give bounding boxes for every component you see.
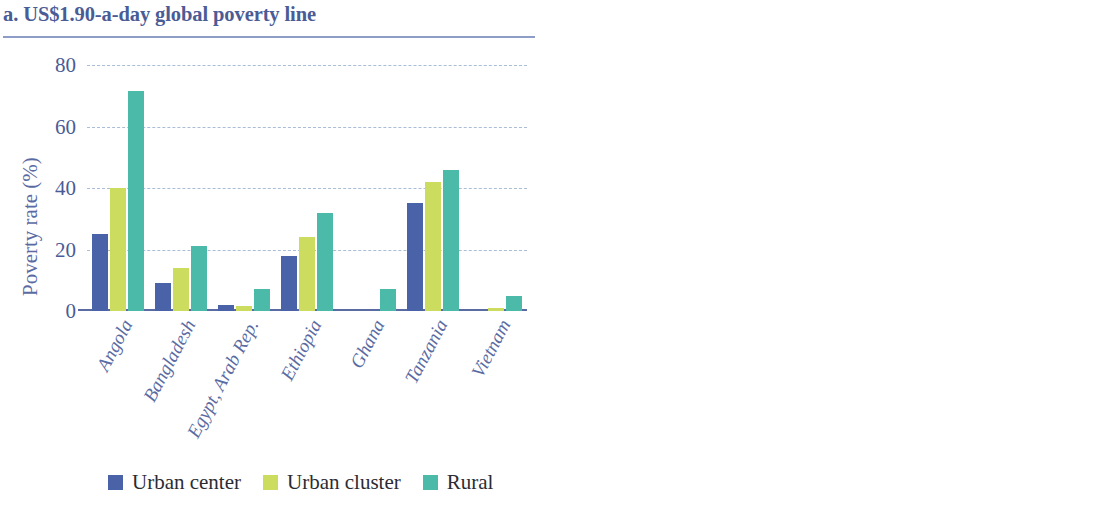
legend-item: Urban cluster (263, 470, 401, 495)
panel-a-title-rule (3, 36, 535, 38)
x-tick-cell: Ghana (338, 313, 401, 314)
legend-label: Rural (447, 470, 494, 495)
legend-swatch (263, 475, 278, 490)
bar (92, 234, 108, 311)
bar (407, 203, 423, 311)
legend-swatch (108, 475, 123, 490)
poverty-rate-figure: a. US$1.90-a-day global poverty line Pov… (0, 0, 1110, 531)
chart-panels: a. US$1.90-a-day global poverty line Pov… (0, 0, 1110, 497)
x-tick-label-text: Ethiopia (276, 316, 326, 384)
y-axis-tick-label: 80 (55, 53, 76, 78)
x-tick-cell: Egypt, Arab Rep. (213, 313, 276, 314)
panel-a-y-axis-label: Poverty rate (%) (18, 157, 43, 296)
y-axis-tick-label: 60 (55, 114, 76, 139)
bar (425, 182, 441, 311)
y-axis-tick-label: 0 (66, 299, 77, 324)
x-tick-cell: Tanzania (401, 313, 464, 314)
x-tick-cell: Vietnam (464, 313, 527, 314)
x-tick-label-text: Bangladesh (139, 316, 201, 406)
legend-item: Rural (423, 470, 494, 495)
y-axis-tick-label: 20 (55, 237, 76, 262)
x-tick-cell: Bangladesh (150, 313, 213, 314)
bar (218, 305, 234, 311)
legend-item: Urban center (108, 470, 241, 495)
x-tick-cell: Angola (87, 313, 150, 314)
x-tick-label-text: Tanzania (400, 316, 452, 387)
panel-a-legend: Urban centerUrban clusterRural (108, 470, 515, 495)
x-tick-label-text: Ghana (346, 316, 390, 372)
legend-label: Urban cluster (287, 470, 401, 495)
panel-a-x-tick-labels: AngolaBangladeshEgypt, Arab Rep.Ethiopia… (87, 313, 527, 314)
y-axis-tick-label: 40 (55, 176, 76, 201)
legend-swatch (423, 475, 438, 490)
panel-a: a. US$1.90-a-day global poverty line Pov… (0, 0, 555, 497)
x-tick-label-text: Vietnam (467, 316, 515, 381)
x-tick-cell: Ethiopia (276, 313, 339, 314)
panel-a-title: a. US$1.90-a-day global poverty line (3, 3, 316, 26)
x-tick-label-text: Angola (93, 316, 138, 375)
bar (110, 188, 126, 311)
legend-label: Urban center (132, 470, 241, 495)
panel-b: b. US$3.20-a-day global poverty line Pov… (555, 0, 1110, 497)
